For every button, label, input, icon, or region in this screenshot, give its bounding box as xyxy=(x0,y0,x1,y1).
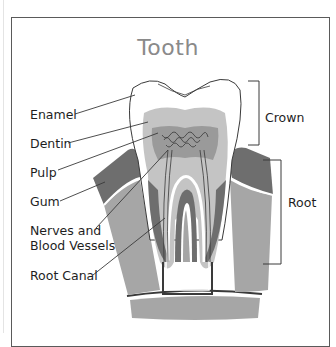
label-gum: Gum xyxy=(30,194,60,209)
label-crown: Crown xyxy=(265,110,304,125)
jaw-bone-right xyxy=(230,180,272,292)
label-root: Root xyxy=(288,195,316,210)
label-pulp: Pulp xyxy=(30,165,57,180)
label-nerves-line1: Nerves and xyxy=(30,223,101,238)
pulp-chamber xyxy=(152,126,219,160)
crown-bracket xyxy=(248,81,259,145)
leader-gum xyxy=(60,182,105,201)
label-enamel: Enamel xyxy=(30,107,77,122)
label-nerves-line2: Blood Vessels xyxy=(30,238,115,253)
leader-enamel xyxy=(75,95,135,114)
label-root-canal: Root Canal xyxy=(30,268,98,283)
label-dentin: Dentin xyxy=(30,136,72,151)
jaw-bone-base xyxy=(130,296,260,320)
